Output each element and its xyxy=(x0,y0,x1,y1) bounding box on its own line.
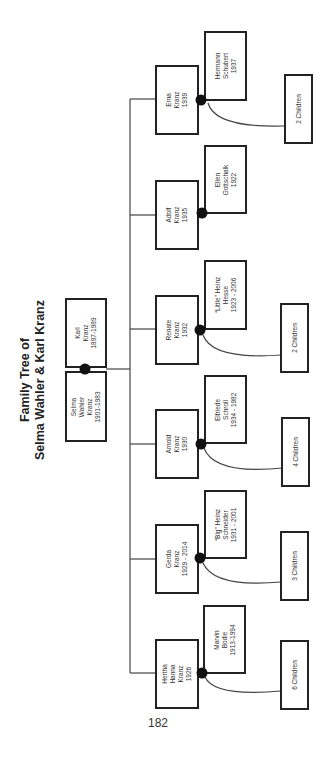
name-line: Kranz xyxy=(173,320,181,341)
offspring-count: 2 Children xyxy=(291,323,299,353)
name-line: Selma xyxy=(70,391,78,422)
offspring-box-arnold: 4 Children xyxy=(281,417,310,487)
name-line: Kranz xyxy=(173,542,181,577)
dates-line: 1922 xyxy=(230,164,238,195)
title-line-2: Selma Wahler & Karl Kranz xyxy=(33,300,48,460)
offspring-count: 6 Children xyxy=(291,660,299,690)
name-line: Kranz xyxy=(173,435,181,454)
dates-line: 1934 - 1982 xyxy=(230,392,238,427)
dates-line: 1931 - 2001 xyxy=(230,507,238,542)
dates-line: 1897-1989 xyxy=(90,317,98,348)
spouse-box-hermann: Hermann Schubert 1937 xyxy=(204,31,247,101)
name-line: Kranz xyxy=(82,317,90,348)
name-line: Arnold xyxy=(165,435,173,454)
marriage-dot xyxy=(197,208,208,219)
dates-line: 1901-1983 xyxy=(94,391,102,422)
offspring-box-erna: 2 Children xyxy=(284,74,313,144)
name-line: “Little” Heinz xyxy=(214,277,222,313)
name-line: Kranz xyxy=(86,391,94,422)
dates-line: 1929 - 2014 xyxy=(181,542,189,577)
person-box-renate: Renate Kranz 1932 xyxy=(155,295,199,365)
name-line: Bodie xyxy=(221,624,229,655)
spouse-box-little-heinz: “Little” Heinz Hesse 1923 - 2006 xyxy=(204,260,247,330)
name-line: Kranz xyxy=(173,207,181,224)
marriage-dot xyxy=(196,439,207,450)
offspring-box-hertha: 6 Children xyxy=(280,640,309,710)
dates-line: 1913-1994 xyxy=(229,624,237,655)
name-line: Hertha xyxy=(161,664,169,684)
spouse-box-elfriede: Elfriede Schroll 1934 - 1982 xyxy=(204,375,247,444)
offspring-count: 4 Children xyxy=(292,437,300,467)
page-number: 182 xyxy=(148,716,168,730)
name-line: Hesse xyxy=(222,277,230,313)
person-box-erna: Erna Kranz 1939 xyxy=(155,65,199,135)
spouse-box-ellen: Ellen Gottschalk 1922 xyxy=(204,145,247,214)
name-line: Wahler xyxy=(78,391,86,422)
name-line: Gerda xyxy=(165,542,173,577)
offspring-box-renate: 2 Children xyxy=(280,303,309,373)
name-line: Adolf xyxy=(165,207,173,224)
person-box-hertha: Hertha Hanna Kranz 1926 xyxy=(155,639,199,709)
spouse-box-big-heinz: “Big” Heinz Schneider 1931 - 2001 xyxy=(204,490,247,559)
dates-line: 1923 - 2006 xyxy=(230,277,238,313)
name-line: Gottschalk xyxy=(222,164,230,195)
person-box-gerda: Gerda Kranz 1929 - 2014 xyxy=(155,524,199,594)
dates-line: 1935 xyxy=(181,207,189,224)
name-line: Kranz xyxy=(173,92,181,109)
dates-line: 1930 xyxy=(181,435,189,454)
marriage-dot xyxy=(195,553,206,564)
name-line: Ellen xyxy=(214,164,222,195)
dates-line: 1932 xyxy=(181,320,189,341)
dates-line: 1939 xyxy=(181,92,189,109)
name-line: Elfriede xyxy=(214,392,222,427)
name-line: Hermann xyxy=(214,53,222,80)
marriage-dot xyxy=(197,668,208,679)
name-line: Erna xyxy=(165,92,173,109)
marriage-dot xyxy=(80,364,91,375)
offspring-count: 2 Children xyxy=(295,94,303,124)
dates-line: 1926 xyxy=(185,664,193,684)
name-line: Schroll xyxy=(222,392,230,427)
dates-line: 1937 xyxy=(230,53,238,80)
person-box-adolf: Adolf Kranz 1935 xyxy=(155,180,199,250)
person-box-karl: Karl Kranz 1897-1989 xyxy=(65,298,107,368)
name-line: Hanna xyxy=(169,664,177,684)
name-line: Schneider xyxy=(222,507,230,542)
spouse-box-marvin: Marvin Bodie 1913-1994 xyxy=(203,605,246,674)
person-box-selma: Selma Wahler Kranz 1901-1983 xyxy=(65,371,107,442)
page-title: Family Tree of Selma Wahler & Karl Kranz xyxy=(18,300,48,460)
title-line-1: Family Tree of xyxy=(18,300,33,460)
marriage-dot xyxy=(196,95,207,106)
name-line: Kranz xyxy=(177,664,185,684)
offspring-count: 3 Children xyxy=(291,551,299,581)
name-line: Karl xyxy=(74,317,82,348)
name-line: “Big” Heinz xyxy=(214,507,222,542)
name-line: Schubert xyxy=(222,53,230,80)
offspring-box-gerda: 3 Children xyxy=(280,531,309,601)
name-line: Marvin xyxy=(213,624,221,655)
name-line: Renate xyxy=(165,320,173,341)
person-box-arnold: Arnold Kranz 1930 xyxy=(155,409,199,479)
marriage-dot xyxy=(195,325,206,336)
